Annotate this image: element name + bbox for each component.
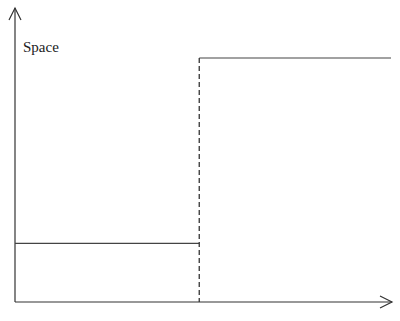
y-axis-label: Space: [23, 39, 59, 55]
diagram-canvas: Space: [0, 0, 400, 321]
